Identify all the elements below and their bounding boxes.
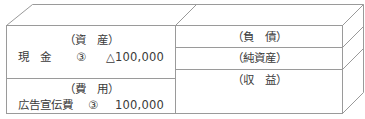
cash-account-label: 現 金 bbox=[18, 50, 51, 64]
revenue-heading: （収 益） bbox=[176, 73, 342, 87]
assets-heading: （資 産） bbox=[6, 33, 176, 47]
cash-amount: △100,000 bbox=[104, 50, 164, 64]
advertising-amount: 100,000 bbox=[104, 98, 164, 112]
cash-ref-marker: ③ bbox=[76, 50, 86, 64]
net-assets-heading: （純資産） bbox=[176, 51, 342, 65]
advertising-account-label: 広告宣伝費 bbox=[18, 98, 73, 112]
liabilities-heading: （負 債） bbox=[176, 30, 342, 44]
advertising-ref-marker: ③ bbox=[88, 98, 98, 112]
expenses-heading: （費 用） bbox=[6, 82, 176, 96]
